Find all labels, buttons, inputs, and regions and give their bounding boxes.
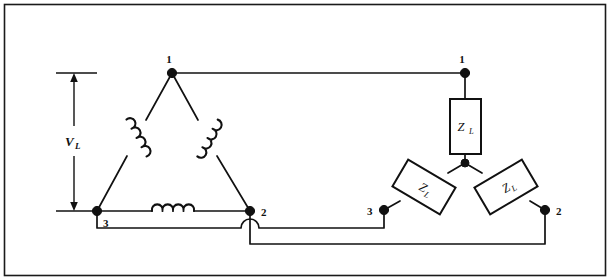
impedance-left: Z L (392, 160, 455, 215)
wye-node-3 (379, 205, 388, 214)
wye-connected-load: Z L Z L Z L 1 2 3 (367, 53, 562, 217)
delta-coil-bottom (152, 204, 194, 211)
delta-node-2-label: 2 (261, 206, 267, 218)
line-voltage-subscript: L (74, 141, 81, 151)
delta-connected-source: 1 2 3 (92, 53, 267, 229)
delta-edge-1-2-lower (217, 156, 250, 211)
impedance-top (450, 99, 481, 154)
wye-neutral-node (461, 159, 469, 167)
impedance-right: Z L (474, 160, 537, 215)
wye-node-2-label: 2 (556, 205, 562, 217)
figure-border (5, 5, 606, 276)
wye-node-2 (540, 205, 549, 214)
connection-line-3 (97, 210, 384, 228)
impedance-top-label: Z (458, 120, 466, 134)
delta-edge-3-1-lower (97, 156, 127, 211)
delta-node-1-label: 1 (166, 53, 172, 65)
wye-node-1 (460, 68, 469, 77)
delta-coil-right (197, 120, 223, 160)
delta-edge-3-1-upper (146, 73, 172, 120)
impedance-top-subscript: L (468, 126, 474, 136)
delta-coil-left (126, 116, 152, 156)
connection-line-2 (250, 210, 545, 244)
line-voltage-label: V (65, 134, 75, 149)
dimension-arrow-up (70, 73, 78, 82)
wye-node-3-label: 3 (367, 205, 373, 217)
dimension-arrow-down (70, 202, 78, 211)
wye-node-1-label: 1 (459, 53, 465, 65)
circuit-diagram-figure: V L (0, 0, 610, 280)
delta-edge-1-2-upper (172, 73, 198, 120)
line-voltage-dimension: V L (56, 73, 97, 211)
